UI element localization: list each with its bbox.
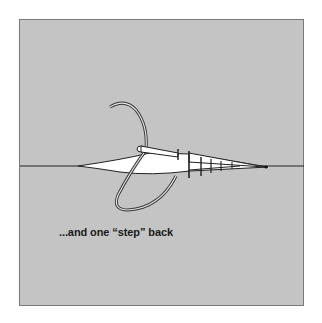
caption: ...and one “step” back	[59, 226, 173, 238]
thread-upper	[110, 103, 146, 150]
stitch-illustration	[0, 0, 322, 323]
needle-tip	[265, 166, 268, 169]
